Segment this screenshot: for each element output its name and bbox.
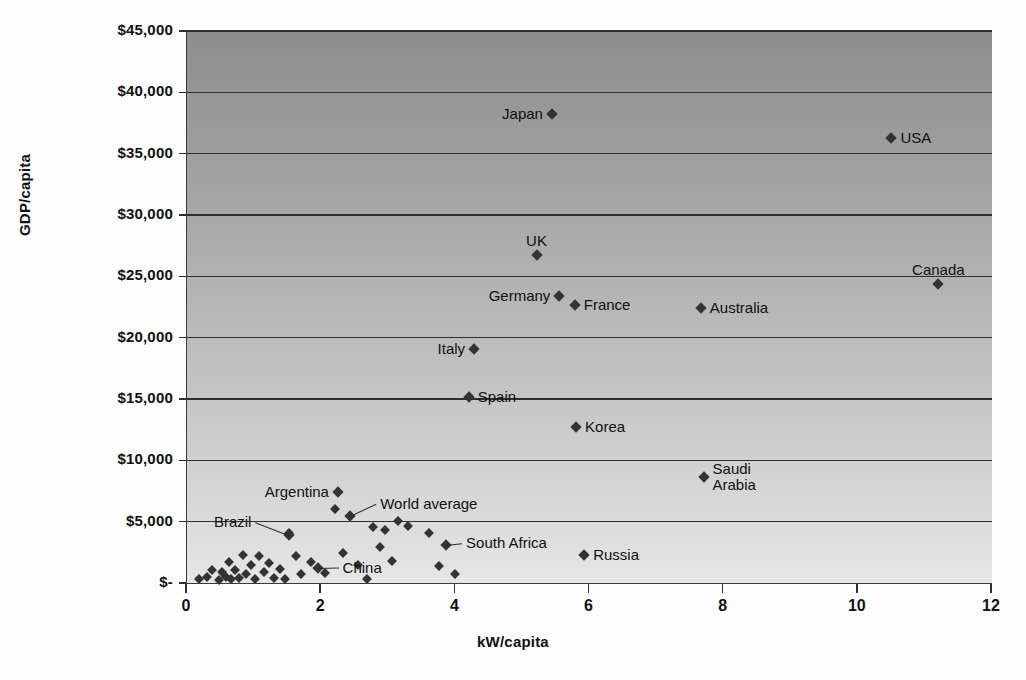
data-point [463, 391, 474, 402]
y-axis-tick-label: $- [159, 573, 173, 590]
data-point [375, 542, 385, 552]
x-axis-tick [588, 584, 589, 593]
x-axis-tick [856, 584, 857, 593]
point-label-china: China [343, 560, 382, 576]
gridline [187, 214, 992, 215]
y-axis-tick-label: $15,000 [117, 389, 173, 406]
y-axis-tick-label: $10,000 [117, 450, 173, 467]
gridline [187, 30, 992, 31]
x-axis-tick-label: 0 [166, 597, 206, 615]
data-point [259, 567, 269, 577]
data-point [698, 471, 709, 482]
data-point [695, 303, 706, 314]
data-point [269, 573, 279, 583]
data-point [434, 561, 444, 571]
data-point [933, 278, 944, 289]
data-point [224, 557, 234, 567]
point-label-russia: Russia [593, 547, 639, 563]
data-point [886, 132, 897, 143]
plot-area: JapanUSAUKCanadaGermanyFranceAustraliaIt… [186, 31, 992, 584]
point-label-world-average: World average [380, 496, 477, 512]
data-point [570, 422, 581, 433]
point-label-korea: Korea [585, 419, 625, 435]
point-label-spain: Spain [478, 388, 516, 404]
y-axis-tick-label: $45,000 [117, 21, 173, 38]
data-point [569, 299, 580, 310]
label-leader-line [255, 522, 289, 536]
point-label-usa: USA [900, 130, 931, 146]
x-axis-tick-label: 8 [703, 597, 743, 615]
point-label-germany: Germany [489, 288, 551, 304]
y-axis-tick-label: $30,000 [117, 205, 173, 222]
data-point [578, 550, 589, 561]
point-label-argentina: Argentina [265, 484, 329, 500]
point-label-south-africa: South Africa [466, 535, 547, 551]
data-point [296, 569, 306, 579]
point-label-japan: Japan [502, 106, 543, 122]
scatter-chart: GDP/capita $-$5,000$10,000$15,000$20,000… [0, 0, 1026, 680]
data-point [546, 109, 557, 120]
y-axis-tick-label: $20,000 [117, 328, 173, 345]
data-point [246, 560, 256, 570]
data-point [450, 569, 460, 579]
data-point [238, 550, 248, 560]
data-point [369, 522, 379, 532]
data-point [424, 528, 434, 538]
data-point [554, 290, 565, 301]
gridline [187, 398, 992, 399]
gridline [187, 337, 992, 338]
y-axis-tick-label: $5,000 [126, 512, 173, 529]
y-axis-tick-label: $40,000 [117, 82, 173, 99]
x-axis-tick [185, 584, 186, 593]
x-axis-tick [990, 584, 991, 593]
data-point [403, 521, 413, 531]
x-axis-tick [722, 584, 723, 593]
x-axis-tick-label: 6 [569, 597, 609, 615]
gridline [187, 460, 992, 461]
data-point [264, 558, 274, 568]
data-point [380, 525, 390, 535]
data-point [338, 548, 348, 558]
point-label-italy: Italy [438, 341, 466, 357]
data-point [250, 574, 260, 584]
point-label-saudi-arabia: SaudiArabia [713, 461, 756, 493]
x-axis-tick-label: 10 [837, 597, 877, 615]
y-axis-tick-label: $25,000 [117, 266, 173, 283]
gridline [187, 521, 992, 522]
point-label-australia: Australia [710, 300, 768, 316]
data-point [332, 487, 343, 498]
point-label-france: France [584, 296, 631, 312]
data-point [531, 250, 542, 261]
data-point [393, 516, 403, 526]
gridline [187, 92, 992, 93]
label-leader-line [350, 504, 377, 517]
data-point [468, 343, 479, 354]
data-point [291, 551, 301, 561]
point-label-line: Saudi [713, 461, 756, 477]
point-label-brazil: Brazil [214, 514, 252, 530]
x-axis-tick [319, 584, 320, 593]
data-point [280, 574, 290, 584]
data-point [330, 504, 340, 514]
x-axis-tick-label: 12 [971, 597, 1011, 615]
data-point [254, 551, 264, 561]
x-axis-title: kW/capita [0, 633, 1026, 650]
x-axis-tick [454, 584, 455, 593]
point-label-canada: Canada [912, 262, 965, 278]
x-axis-tick-label: 4 [434, 597, 474, 615]
data-point [362, 574, 372, 584]
gridline [187, 276, 992, 277]
point-label-line: Arabia [713, 477, 756, 493]
gridline [187, 153, 992, 154]
data-point [387, 556, 397, 566]
y-axis-tick-label: $35,000 [117, 144, 173, 161]
data-point [275, 564, 285, 574]
point-label-uk: UK [526, 233, 547, 249]
x-axis-tick-label: 2 [300, 597, 340, 615]
y-axis-title: GDP/capita [16, 154, 33, 236]
